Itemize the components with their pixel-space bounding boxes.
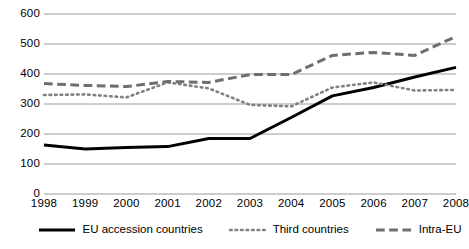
x-axis-tick-label: 1999	[72, 198, 98, 210]
x-axis-tick-label: 2006	[360, 198, 386, 210]
x-axis-tick-label: 2004	[278, 198, 304, 210]
legend-label: Third countries	[273, 224, 349, 236]
x-axis-tick-label: 2003	[237, 198, 263, 210]
legend-swatch-solid	[38, 225, 76, 235]
legend-label: EU accession countries	[82, 224, 202, 236]
legend-item[interactable]: EU accession countries	[38, 224, 202, 236]
x-axis-tick-label: 1998	[31, 198, 57, 210]
x-axis: 1998199920002001200220032004200520062007…	[44, 196, 456, 216]
series-line	[44, 82, 456, 106]
chart-legend: EU accession countriesThird countriesInt…	[44, 219, 456, 241]
legend-label: Intra-EU	[419, 224, 462, 236]
series-line	[44, 67, 456, 149]
x-axis-tick-label: 2000	[113, 198, 139, 210]
x-axis-tick-label: 2001	[154, 198, 180, 210]
series-lines	[44, 37, 456, 150]
x-axis-tick-label: 2007	[402, 198, 428, 210]
legend-item[interactable]: Intra-EU	[375, 224, 462, 236]
x-axis-tick-label: 2008	[443, 198, 469, 210]
legend-swatch-dotted	[229, 225, 267, 235]
legend-item[interactable]: Third countries	[229, 224, 349, 236]
legend-swatch-dashed	[375, 225, 413, 235]
x-axis-tick-label: 2005	[319, 198, 345, 210]
x-axis-tick-label: 2002	[196, 198, 222, 210]
